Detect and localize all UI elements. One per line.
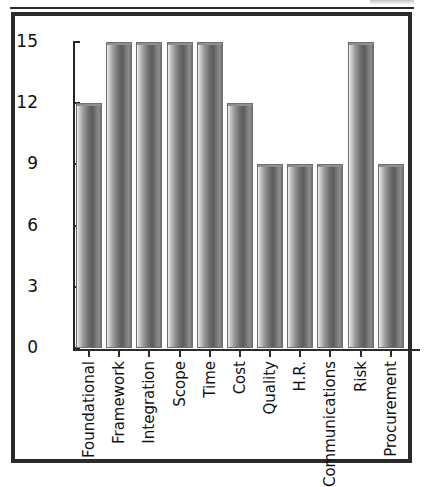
chart-frame: 03691215 FoundationalFrameworkIntegratio… (11, 12, 412, 463)
category-label-text: Scope (171, 361, 189, 407)
x-axis-tick (179, 351, 181, 357)
category-label-text: Risk (352, 361, 370, 392)
x-axis-category-label: Foundational (76, 361, 102, 481)
x-axis-tick (118, 351, 120, 357)
x-axis-tick (209, 351, 211, 357)
x-axis-line (73, 349, 420, 351)
x-axis-category-label: Procurement (378, 361, 404, 481)
category-label-text: Procurement (382, 361, 400, 457)
plot-area (73, 42, 419, 348)
y-axis-tick-label: 9 (0, 155, 38, 172)
category-label-text: Communications (321, 361, 339, 487)
y-axis-tick-label: 12 (0, 94, 38, 111)
bar (136, 42, 162, 348)
x-axis-tick (148, 351, 150, 357)
category-label-text: H.R. (291, 361, 309, 391)
category-label-text: Time (201, 361, 219, 398)
category-label-text: Foundational (80, 361, 98, 458)
x-axis-category-label: Time (197, 361, 223, 481)
y-axis-tick-label: 0 (0, 339, 38, 356)
x-axis-tick (360, 351, 362, 357)
y-axis-tick-label: 15 (0, 33, 38, 50)
bar (167, 42, 193, 348)
bar (257, 164, 283, 348)
bar (106, 42, 132, 348)
x-axis-category-label: Risk (348, 361, 374, 481)
x-axis-category-label: H.R. (287, 361, 313, 481)
x-axis-tick (88, 351, 90, 357)
x-axis-tick (239, 351, 241, 357)
x-axis-category-label: Cost (227, 361, 253, 481)
x-axis-tick (299, 351, 301, 357)
x-axis-category-label: Communications (317, 361, 343, 481)
y-axis-tick-label: 6 (0, 217, 38, 234)
y-axis-tick-label: 3 (0, 278, 38, 295)
page-edge-artifact (370, 0, 414, 5)
bar (197, 42, 223, 348)
x-axis-category-label: Integration (136, 361, 162, 481)
x-axis-category-label: Quality (257, 361, 283, 481)
page-top-rule (10, 7, 414, 9)
category-label-text: Integration (140, 361, 158, 444)
category-label-text: Framework (110, 361, 128, 444)
bar (76, 103, 102, 348)
x-axis-tick (269, 351, 271, 357)
x-axis-category-label: Framework (106, 361, 132, 481)
bar (287, 164, 313, 348)
bar (348, 42, 374, 348)
x-axis-tick (329, 351, 331, 357)
category-label-text: Cost (231, 361, 249, 394)
category-label-text: Quality (261, 361, 279, 415)
x-axis-category-label: Scope (167, 361, 193, 481)
bar (317, 164, 343, 348)
bar (378, 164, 404, 348)
x-axis-tick (390, 351, 392, 357)
bar (227, 103, 253, 348)
